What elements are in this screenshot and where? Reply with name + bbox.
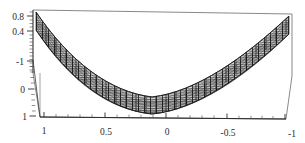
y-tick-label-1: 0	[20, 85, 25, 95]
x-tick-label-0: 1	[42, 126, 47, 136]
y-axis: -1 0 1	[16, 57, 40, 122]
box-top-back-edge	[33, 10, 292, 14]
y-tick-label-0: -1	[16, 57, 24, 67]
x-tick-label-2: 0	[165, 127, 170, 137]
z-tick-label-1: 0.4	[12, 27, 24, 37]
y-tick-label-2: 1	[22, 112, 27, 122]
x-tick-label-1: 0.5	[100, 127, 112, 137]
y-axis-line	[33, 60, 40, 117]
box-right-depth-edge	[286, 76, 292, 119]
x-axis: 1 0.5 0 -0.5 -1	[40, 112, 296, 139]
surface-parabolic-trough	[36, 8, 289, 116]
z-tick-label-0: 0.8	[12, 12, 24, 22]
x-axis-line	[40, 117, 286, 119]
y-axis-major-ticks	[27, 61, 36, 116]
plot3d-figure: 0.8 0.4 -1 0 1	[0, 0, 305, 143]
plot3d-canvas: 0.8 0.4 -1 0 1	[0, 0, 305, 143]
x-tick-label-3: -0.5	[220, 128, 235, 138]
x-tick-label-4: -1	[288, 129, 296, 139]
